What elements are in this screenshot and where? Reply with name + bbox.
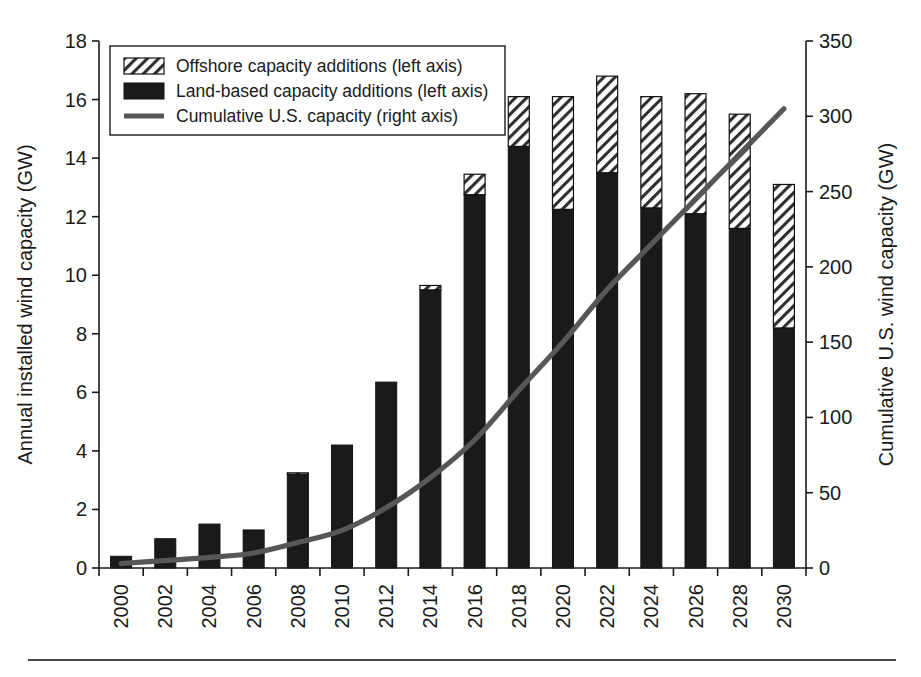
bar-segment-land-based	[552, 209, 573, 568]
legend-item-label: Offshore capacity additions (left axis)	[176, 56, 463, 76]
bar-group	[508, 97, 529, 568]
bar-segment-offshore	[464, 174, 485, 194]
bar-group	[332, 445, 353, 568]
legend-item: Land-based capacity additions (left axis…	[124, 81, 488, 101]
x-axis-tick-label: 2000	[110, 584, 132, 629]
y-axis-tick-label: 8	[76, 323, 87, 345]
legend-item-label: Cumulative U.S. capacity (right axis)	[176, 106, 458, 126]
bar-segment-land-based	[773, 328, 794, 568]
chart-canvas: 0246810121416180501001502002503003502000…	[0, 0, 921, 677]
y-axis-tick-label: 16	[65, 89, 87, 111]
y-axis-tick-label: 0	[76, 557, 87, 579]
bar-segment-land-based	[376, 382, 397, 568]
bar-group	[199, 524, 220, 568]
x-axis-tick-label: 2010	[331, 584, 353, 629]
bar-segment-land-based	[199, 524, 220, 568]
bar-group	[155, 539, 176, 568]
y2-axis-tick-label: 50	[819, 482, 841, 504]
y-axis-tick-label: 6	[76, 381, 87, 403]
bar-group	[685, 94, 706, 568]
bar-group	[773, 184, 794, 568]
x-axis-tick-label: 2018	[508, 584, 530, 629]
x-axis-tick-label: 2008	[287, 584, 309, 629]
y2-axis-tick-label: 350	[819, 30, 852, 52]
y2-axis-tick-label: 0	[819, 557, 830, 579]
x-axis-tick-label: 2012	[375, 584, 397, 629]
bar-segment-land-based	[332, 445, 353, 568]
legend-item-label: Land-based capacity additions (left axis…	[176, 81, 488, 101]
y2-axis-tick-label: 150	[819, 331, 852, 353]
legend-swatch-land-based	[124, 83, 164, 99]
x-axis-tick-label: 2014	[419, 584, 441, 629]
x-axis-tick-label: 2016	[464, 584, 486, 629]
y-axis-tick-label: 14	[65, 147, 87, 169]
bar-group	[464, 174, 485, 568]
x-axis-tick-label: 2022	[596, 584, 618, 629]
bar-segment-offshore	[729, 114, 750, 228]
bar-group	[729, 114, 750, 568]
x-axis-tick-label: 2028	[729, 584, 751, 629]
y2-axis-tick-label: 100	[819, 406, 852, 428]
legend-swatch-offshore	[124, 58, 164, 74]
bar-segment-land-based	[685, 214, 706, 568]
bar-group	[420, 285, 441, 568]
y-axis-tick-label: 12	[65, 206, 87, 228]
bar-group	[287, 473, 308, 568]
x-axis-tick-label: 2026	[685, 584, 707, 629]
bar-segment-offshore	[287, 473, 308, 475]
y2-axis-tick-label: 250	[819, 181, 852, 203]
x-axis-tick-label: 2002	[154, 584, 176, 629]
bar-segment-land-based	[508, 146, 529, 568]
x-axis-tick-label: 2020	[552, 584, 574, 629]
bar-group	[597, 76, 618, 568]
bar-segment-offshore	[597, 76, 618, 173]
right-axis-title: Cumulative U.S. wind capacity (GW)	[875, 143, 897, 466]
y-axis-tick-label: 4	[76, 440, 87, 462]
bar-segment-offshore	[641, 97, 662, 208]
bar-segment-offshore	[773, 184, 794, 327]
bar-segment-offshore	[508, 97, 529, 147]
bar-segment-land-based	[597, 173, 618, 568]
wind-capacity-chart: 0246810121416180501001502002503003502000…	[0, 0, 921, 677]
footer-rule	[28, 659, 896, 661]
bar-group	[641, 97, 662, 568]
y-axis-tick-label: 18	[65, 30, 87, 52]
bar-segment-land-based	[464, 195, 485, 568]
y2-axis-tick-label: 200	[819, 256, 852, 278]
x-axis-tick-label: 2024	[640, 584, 662, 629]
bar-segment-land-based	[287, 474, 308, 568]
x-axis-tick-label: 2030	[773, 584, 795, 629]
bar-segment-land-based	[155, 539, 176, 568]
y-axis-tick-label: 10	[65, 264, 87, 286]
y-axis-tick-label: 2	[76, 498, 87, 520]
bar-segment-offshore	[552, 97, 573, 210]
bar-group	[376, 382, 397, 568]
left-axis-title: Annual installed wind capacity (GW)	[14, 144, 36, 464]
chart-legend: Offshore capacity additions (left axis)L…	[110, 46, 505, 135]
bar-segment-land-based	[729, 228, 750, 568]
bar-segment-offshore	[420, 285, 441, 289]
x-axis-tick-label: 2006	[243, 584, 265, 629]
bar-segment-land-based	[641, 208, 662, 568]
bar-segment-land-based	[420, 290, 441, 568]
x-axis-tick-label: 2004	[198, 584, 220, 629]
y2-axis-tick-label: 300	[819, 105, 852, 127]
